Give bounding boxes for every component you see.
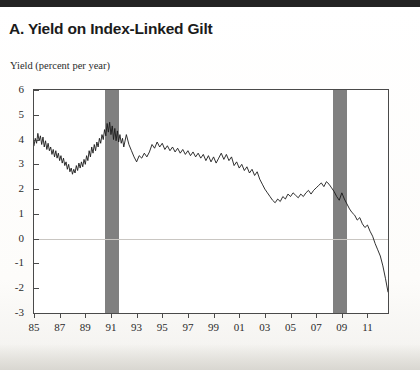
y-axis-tick [34, 214, 39, 215]
x-axis-tick [316, 313, 317, 318]
y-axis-tick-label: -2 [2, 281, 24, 293]
x-axis-tick-label: 85 [22, 321, 46, 333]
x-axis-tick [34, 313, 35, 318]
x-axis-tick-label: 09 [330, 321, 354, 333]
y-axis-tick [34, 189, 39, 190]
y-axis-tick-label: 5 [2, 108, 24, 120]
y-axis-tick [34, 90, 39, 91]
x-axis-tick-label: 91 [99, 321, 123, 333]
x-axis-tick [188, 313, 189, 318]
x-axis-tick-label: 93 [125, 321, 149, 333]
x-axis-tick-label: 95 [150, 321, 174, 333]
plot-inner [34, 90, 388, 313]
x-axis-tick-label: 07 [304, 321, 328, 333]
x-axis-tick [111, 313, 112, 318]
x-axis-tick [342, 313, 343, 318]
plot-area [33, 89, 389, 314]
x-axis-tick [265, 313, 266, 318]
y-axis-tick [34, 115, 39, 116]
y-axis-tick-label: 3 [2, 157, 24, 169]
y-axis-tick-label: 1 [2, 207, 24, 219]
y-axis-tick-label: 4 [2, 133, 24, 145]
y-axis-tick-label: 0 [2, 232, 24, 244]
y-axis-tick-label: 6 [2, 83, 24, 95]
x-axis-tick [239, 313, 240, 318]
y-axis-tick [34, 263, 39, 264]
figure-page: A. Yield on Index-Linked Gilt Yield (per… [0, 7, 420, 370]
y-axis-unit-label: Yield (percent per year) [10, 60, 110, 71]
x-axis-tick-label: 87 [48, 321, 72, 333]
y-axis-tick [34, 288, 39, 289]
x-axis-tick [60, 313, 61, 318]
x-axis-tick-label: 99 [202, 321, 226, 333]
x-axis-tick-label: 03 [253, 321, 277, 333]
y-axis-tick [34, 239, 39, 240]
y-axis-tick-label: 2 [2, 182, 24, 194]
page-title: A. Yield on Index-Linked Gilt [9, 20, 212, 38]
x-axis-tick-label: 11 [355, 321, 379, 333]
x-axis-tick [214, 313, 215, 318]
x-axis-tick-label: 05 [279, 321, 303, 333]
y-axis-tick [34, 140, 39, 141]
scan-bottom-artifact [0, 344, 420, 370]
yield-series-line [34, 90, 388, 313]
x-axis-tick-label: 97 [176, 321, 200, 333]
x-axis-tick-label: 01 [227, 321, 251, 333]
x-axis-tick [137, 313, 138, 318]
y-axis-tick-label: -1 [2, 256, 24, 268]
x-axis-tick-label: 89 [73, 321, 97, 333]
y-axis-tick-label: -3 [2, 306, 24, 318]
y-axis-tick [34, 164, 39, 165]
x-axis-tick [162, 313, 163, 318]
x-axis-tick [367, 313, 368, 318]
x-axis-tick [291, 313, 292, 318]
scan-top-artifact [0, 0, 420, 7]
x-axis-tick [85, 313, 86, 318]
